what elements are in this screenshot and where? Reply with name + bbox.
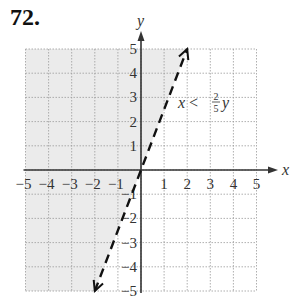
y-tick-label: 3 [130, 89, 138, 105]
x-axis-label: x [281, 161, 289, 178]
inequality-label: x < 25y [177, 91, 230, 114]
x-tick-label: −3 [62, 176, 78, 192]
fraction-denominator: 5 [214, 103, 219, 114]
y-tick-label: −4 [121, 259, 137, 275]
y-tick-label: 4 [130, 65, 138, 81]
y-tick-label: −5 [121, 283, 137, 299]
y-axis-label: y [135, 12, 145, 30]
x-tick-label: 5 [253, 176, 261, 192]
inequality-var: y [220, 94, 230, 112]
x-tick-label: 4 [230, 176, 238, 192]
inequality-graph: xy −5−4−3−2−11234554321−1−2−3−4−5 x < 25… [0, 0, 298, 308]
y-tick-label: 2 [130, 114, 138, 130]
y-tick-label: −3 [121, 235, 137, 251]
y-tick-label: 1 [130, 138, 138, 154]
x-tick-label: −2 [85, 176, 101, 192]
x-tick-label: 2 [183, 176, 191, 192]
inequality-text: x < [177, 94, 198, 111]
x-tick-label: 1 [160, 176, 168, 192]
fraction-numerator: 2 [214, 91, 219, 102]
x-tick-label: −4 [39, 176, 55, 192]
x-axis-arrow-icon [268, 167, 278, 174]
y-tick-label: 5 [130, 41, 138, 57]
x-tick-label: 3 [207, 176, 215, 192]
y-axis-arrow-icon [138, 31, 145, 41]
x-tick-label: −5 [16, 176, 32, 192]
